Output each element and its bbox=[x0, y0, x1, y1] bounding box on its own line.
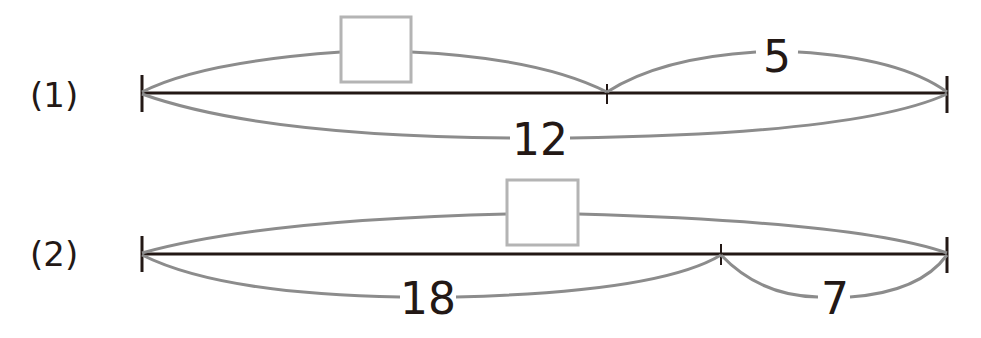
bottom-right-arc bbox=[721, 255, 818, 297]
problem-2-label: (2) bbox=[30, 234, 78, 274]
top-right-arc bbox=[607, 52, 756, 92]
segment-right-value: 7 bbox=[821, 273, 849, 324]
problem-1: (1) 5 12 bbox=[30, 17, 947, 165]
bottom-left-arc bbox=[142, 255, 400, 297]
top-left-arc bbox=[142, 52, 341, 92]
bottom-left-arc bbox=[456, 255, 721, 297]
total-value: 12 bbox=[512, 114, 568, 165]
tape-diagrams: (1) 5 12 (2) 18 bbox=[0, 0, 981, 338]
problem-1-label: (1) bbox=[30, 75, 78, 115]
top-left-arc bbox=[411, 52, 607, 92]
answer-box[interactable] bbox=[507, 180, 578, 245]
top-arc bbox=[142, 214, 507, 253]
segment-right-value: 5 bbox=[763, 31, 791, 82]
segment-left-value: 18 bbox=[400, 273, 456, 324]
bottom-right-arc bbox=[850, 255, 947, 297]
top-right-arc bbox=[798, 52, 947, 92]
problem-2: (2) 18 7 bbox=[30, 180, 947, 324]
bottom-arc bbox=[570, 94, 947, 138]
answer-box[interactable] bbox=[341, 17, 411, 82]
top-arc bbox=[578, 214, 947, 253]
bottom-arc bbox=[142, 94, 510, 138]
